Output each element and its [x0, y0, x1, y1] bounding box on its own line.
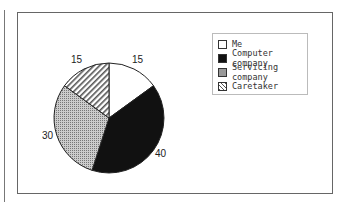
- swatch-white-icon: [218, 40, 227, 49]
- swatch-black-icon: [218, 54, 227, 63]
- label-computer-company: 40: [155, 148, 166, 159]
- legend: Me Computer company Servicing company Ca…: [212, 33, 308, 95]
- label-me: 15: [132, 54, 143, 65]
- swatch-diagonal-icon: [218, 82, 227, 91]
- pie-chart: [0, 0, 351, 207]
- legend-item-servicing-company: Servicing company: [218, 65, 302, 79]
- swatch-grid-icon: [218, 68, 227, 77]
- label-servicing-company: 30: [42, 130, 53, 141]
- label-caretaker: 15: [71, 54, 82, 65]
